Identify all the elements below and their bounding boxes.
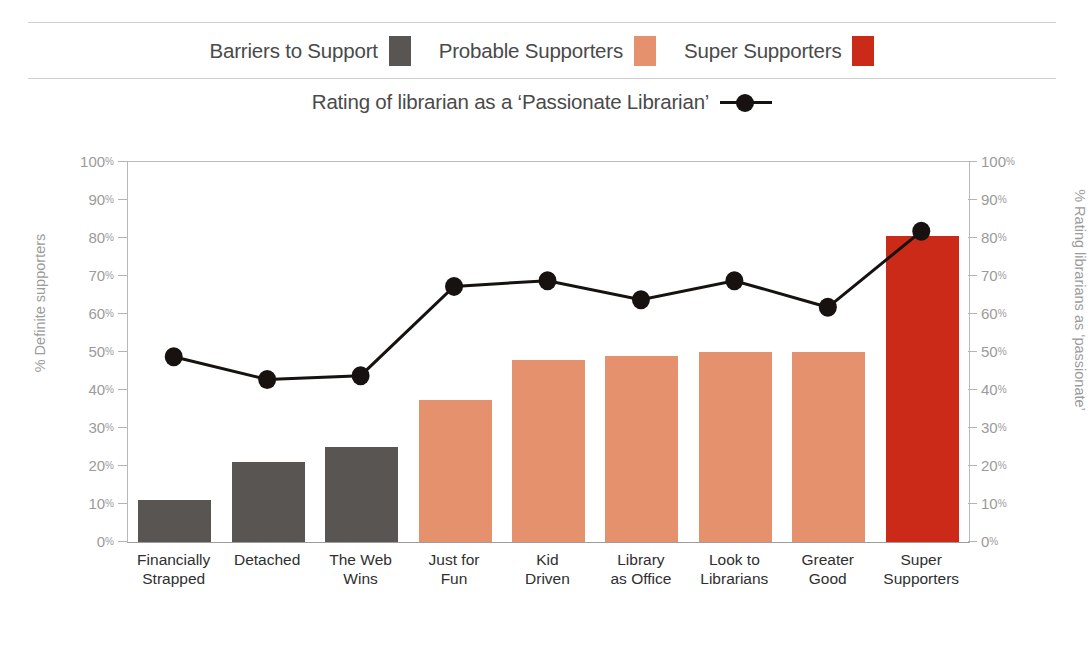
left-axis-tick-mark <box>118 275 127 276</box>
plot-frame <box>127 161 970 543</box>
left-axis-tick-label: 60% <box>56 306 114 321</box>
bar[interactable] <box>792 352 865 542</box>
left-axis-tick-mark <box>118 465 127 466</box>
bar[interactable] <box>419 400 492 543</box>
right-axis-tick-label: 0% <box>981 534 1039 549</box>
x-axis-label: Detached <box>220 550 313 589</box>
legend-block: Barriers to Support Probable Supporters … <box>28 22 1056 125</box>
left-axis-tick-mark <box>118 313 127 314</box>
legend-item-probable-supporters[interactable]: Probable Supporters <box>439 36 656 66</box>
x-axis-label: KidDriven <box>501 550 594 589</box>
left-axis-tick-mark <box>118 199 127 200</box>
bar-slot <box>408 162 501 542</box>
left-axis-tick-mark <box>118 541 127 542</box>
x-axis-label: The WebWins <box>314 550 407 589</box>
legend-label-passionate-librarian: Rating of librarian as a ‘Passionate Lib… <box>312 90 709 114</box>
left-axis-tick-label: 100% <box>56 154 114 169</box>
left-axis-tick-label: 10% <box>56 496 114 511</box>
legend-item-passionate-librarian[interactable]: Rating of librarian as a ‘Passionate Lib… <box>312 90 772 114</box>
bar[interactable] <box>605 356 678 542</box>
top-caption <box>0 0 1084 8</box>
x-axis-label: Look toLibrarians <box>688 550 781 589</box>
left-axis-tick-mark <box>118 237 127 238</box>
bar-slot <box>689 162 782 542</box>
legend-swatch-gray <box>389 36 411 66</box>
left-axis-tick-label: 40% <box>56 382 114 397</box>
right-axis-tick-label: 20% <box>981 458 1039 473</box>
legend-swatch-red <box>852 36 874 66</box>
legend-item-super-supporters[interactable]: Super Supporters <box>684 36 874 66</box>
x-axis-label: Libraryas Office <box>594 550 687 589</box>
bar-slot <box>595 162 688 542</box>
right-axis-tick-label: 100% <box>981 154 1039 169</box>
right-axis-tick-label: 90% <box>981 192 1039 207</box>
x-axis-labels: FinanciallyStrappedDetachedThe WebWinsJu… <box>127 550 968 589</box>
legend-label-barriers-to-support: Barriers to Support <box>210 39 378 63</box>
legend-row-bars: Barriers to Support Probable Supporters … <box>28 23 1056 78</box>
right-axis-tick-label: 70% <box>981 268 1039 283</box>
left-axis-tick-mark <box>118 389 127 390</box>
bar[interactable] <box>138 500 211 542</box>
right-axis-tick-mark <box>968 161 977 162</box>
x-axis-label: Just forFun <box>407 550 500 589</box>
right-axis-tick-mark <box>968 237 977 238</box>
bar-slot <box>876 162 969 542</box>
right-axis-tick-label: 10% <box>981 496 1039 511</box>
left-axis-tick-label: 20% <box>56 458 114 473</box>
left-axis-tick-label: 80% <box>56 230 114 245</box>
line-marker-key-icon <box>720 93 772 111</box>
chart-area: % Definite supporters % Rating librarian… <box>0 150 1084 620</box>
bar[interactable] <box>232 462 305 542</box>
bar[interactable] <box>512 360 585 542</box>
right-axis-tick-mark <box>968 313 977 314</box>
bar[interactable] <box>886 236 959 542</box>
left-axis-tick-label: 70% <box>56 268 114 283</box>
right-axis-tick-label: 40% <box>981 382 1039 397</box>
right-axis-tick-label: 50% <box>981 344 1039 359</box>
left-axis-tick-mark <box>118 161 127 162</box>
right-axis-tick-mark <box>968 389 977 390</box>
left-axis-tick-label: 90% <box>56 192 114 207</box>
bar-slot <box>221 162 314 542</box>
bar[interactable] <box>699 352 772 542</box>
right-axis-tick-mark <box>968 199 977 200</box>
left-axis-tick-mark <box>118 503 127 504</box>
right-axis-title: % Rating librarians as ‘passionate’ <box>1072 165 1088 435</box>
bar-series <box>128 162 969 542</box>
right-axis-tick-label: 30% <box>981 420 1039 435</box>
left-axis-tick-label: 0% <box>56 534 114 549</box>
right-axis-tick-label: 80% <box>981 230 1039 245</box>
left-axis-tick-label: 30% <box>56 420 114 435</box>
bar-slot <box>128 162 221 542</box>
bar[interactable] <box>325 447 398 542</box>
right-axis-tick-mark <box>968 541 977 542</box>
left-axis-tick-mark <box>118 427 127 428</box>
right-axis-tick-mark <box>968 503 977 504</box>
legend-label-super-supporters: Super Supporters <box>684 39 841 63</box>
right-axis-tick-mark <box>968 275 977 276</box>
bar-slot <box>502 162 595 542</box>
right-axis-tick-mark <box>968 465 977 466</box>
right-axis-tick-mark <box>968 351 977 352</box>
legend-item-barriers-to-support[interactable]: Barriers to Support <box>210 36 411 66</box>
legend-label-probable-supporters: Probable Supporters <box>439 39 623 63</box>
right-axis-tick-label: 60% <box>981 306 1039 321</box>
left-axis-tick-label: 50% <box>56 344 114 359</box>
legend-swatch-salmon <box>634 36 656 66</box>
bar-slot <box>315 162 408 542</box>
bottom-caption <box>0 643 1084 649</box>
legend-row-line: Rating of librarian as a ‘Passionate Lib… <box>28 79 1056 125</box>
left-axis-tick-mark <box>118 351 127 352</box>
x-axis-label: GreaterGood <box>781 550 874 589</box>
x-axis-label: SuperSupporters <box>875 550 968 589</box>
bar-slot <box>782 162 875 542</box>
left-axis-title: % Definite supporters <box>32 203 48 403</box>
x-axis-label: FinanciallyStrapped <box>127 550 220 589</box>
right-axis-tick-mark <box>968 427 977 428</box>
